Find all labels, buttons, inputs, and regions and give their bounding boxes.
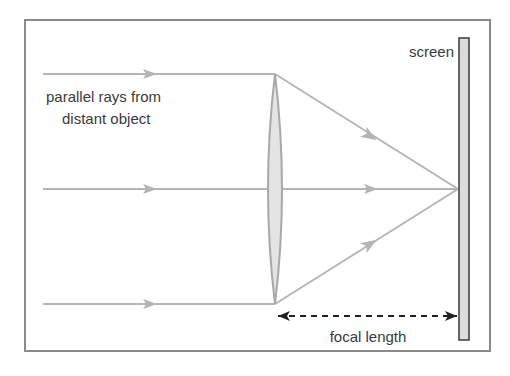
lens-diagram: parallel rays from distant object screen…	[0, 0, 510, 376]
focal-length-label: focal length	[330, 328, 407, 345]
diagram-frame	[25, 20, 490, 351]
rays-label-line-1: parallel rays from	[46, 88, 161, 105]
rays-label-line-2: distant object	[62, 110, 151, 127]
screen-label: screen	[409, 43, 454, 60]
screen	[459, 38, 469, 340]
